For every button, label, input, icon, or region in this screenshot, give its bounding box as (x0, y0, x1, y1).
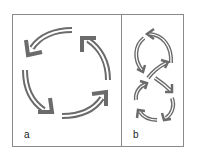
arrow-b-cross-up-icon (148, 60, 168, 78)
panel-b-label: b (133, 130, 139, 140)
arrow-b-right-lower-icon (162, 98, 173, 120)
arrow-b-left-upper-icon (136, 38, 145, 72)
panel-b-figure-eight-arrows (136, 29, 173, 120)
arrow-bottom-right-icon (62, 92, 106, 116)
arrow-b-top-icon (147, 29, 171, 63)
arrow-bottom-left-icon (25, 70, 52, 112)
arrow-top-left-icon (26, 30, 72, 55)
arrow-b-left-lower-icon (136, 81, 147, 100)
panel-a-cycle-arrows (25, 30, 108, 116)
panel-a-label: a (24, 130, 30, 140)
arrow-b-bottom-icon (137, 110, 157, 120)
arrow-b-cross-down-icon (155, 78, 172, 92)
arrow-top-right-icon (82, 38, 108, 80)
diagram-canvas (0, 0, 200, 159)
